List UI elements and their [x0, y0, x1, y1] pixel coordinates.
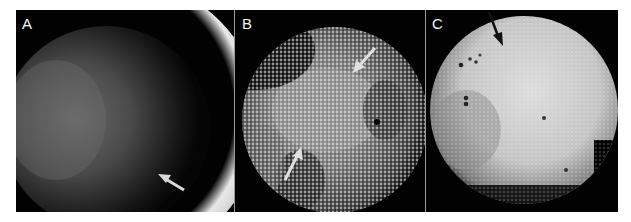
- panel-label-a: A: [22, 16, 32, 31]
- panel-a: A: [16, 10, 234, 212]
- panel-b-image: [235, 10, 425, 212]
- panel-b: B: [235, 10, 425, 212]
- panel-c: C: [426, 10, 618, 212]
- panel-a-image: [16, 10, 234, 212]
- panel-label-c: C: [432, 16, 443, 31]
- figure-composite: A: [16, 10, 618, 212]
- panel-label-b: B: [242, 16, 252, 31]
- panel-c-image: [426, 10, 618, 212]
